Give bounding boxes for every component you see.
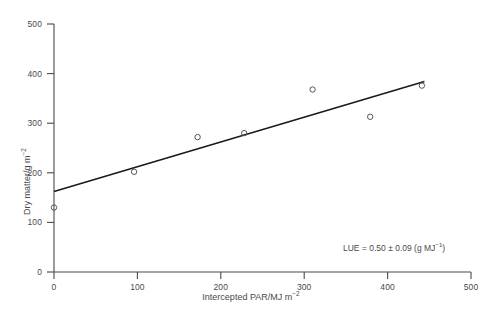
y-tick-label-0: 0 — [14, 267, 42, 277]
x-tick-label-200: 200 — [201, 282, 241, 292]
data-points — [51, 83, 424, 210]
y-tick-label-500: 500 — [14, 19, 42, 29]
lue-annotation-text: LUE = 0.50 ± 0.09 (g MJ — [343, 243, 435, 253]
y-tick-label-400: 400 — [14, 69, 42, 79]
regression-line — [54, 82, 424, 192]
chart-figure: 0 100 200 300 400 500 0 100 200 300 400 … — [0, 0, 502, 310]
data-point — [195, 134, 200, 139]
y-tick-label-300: 300 — [14, 118, 42, 128]
x-axis-title: Intercepted PAR/MJ m−2 — [0, 292, 502, 302]
y-axis-title-exponent: −2 — [20, 148, 27, 155]
x-axis-title-exponent: −2 — [292, 290, 299, 297]
x-tick-label-300: 300 — [284, 282, 324, 292]
x-tick-label-400: 400 — [368, 282, 408, 292]
data-point — [310, 87, 315, 92]
data-point — [131, 169, 136, 174]
y-axis-title: Dry matter/g m−2 — [22, 148, 32, 215]
data-point — [368, 114, 373, 119]
lue-annotation: LUE = 0.50 ± 0.09 (g MJ−1) — [343, 243, 445, 253]
data-point — [419, 83, 424, 88]
x-axis-title-text: Intercepted PAR/MJ m — [202, 292, 292, 302]
lue-annotation-suffix: ) — [442, 243, 445, 253]
x-tick-label-100: 100 — [117, 282, 157, 292]
y-axis-title-text: Dry matter/g m — [22, 155, 32, 215]
plot-area — [0, 0, 502, 310]
x-tick-label-0: 0 — [34, 282, 74, 292]
y-tick-label-100: 100 — [14, 217, 42, 227]
x-axis-ticks — [54, 272, 471, 279]
y-axis-ticks — [47, 24, 54, 272]
x-tick-label-500: 500 — [451, 282, 491, 292]
